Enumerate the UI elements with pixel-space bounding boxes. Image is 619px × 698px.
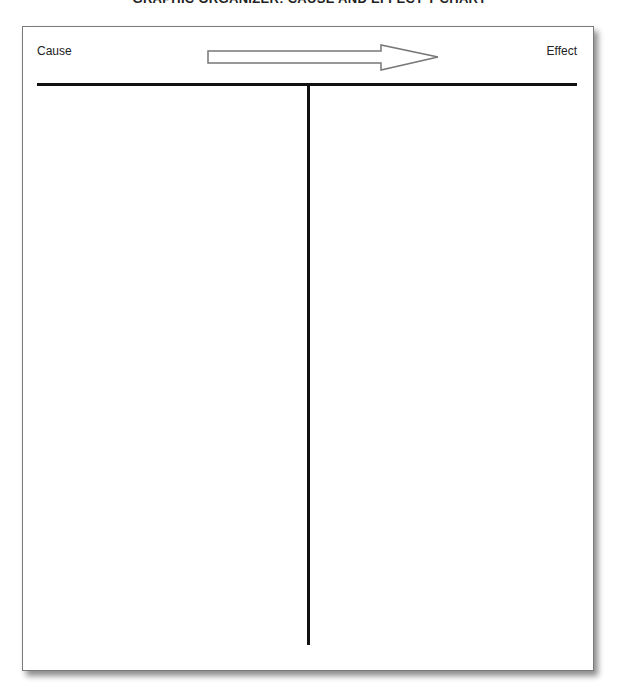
page-title: GRAPHIC ORGANIZER: CAUSE AND EFFECT T-CH… xyxy=(0,0,619,6)
vertical-divider xyxy=(307,85,310,645)
right-arrow-icon xyxy=(206,43,464,73)
cause-heading: Cause xyxy=(37,44,72,58)
t-chart-sheet: Cause Effect xyxy=(22,26,594,671)
effect-heading: Effect xyxy=(547,44,577,58)
